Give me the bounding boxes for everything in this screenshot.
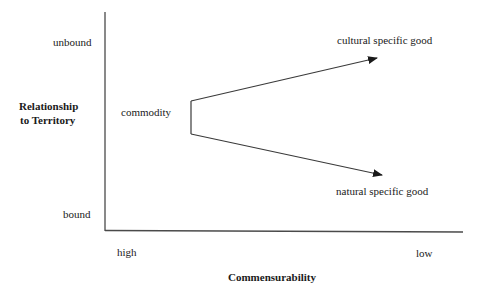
commodity-label: commodity [121, 106, 171, 119]
y-axis-top-label: unbound [53, 36, 92, 49]
y-axis-bottom-label: bound [63, 208, 91, 221]
x-axis-right-label: low [416, 247, 433, 260]
y-axis-title-line1: Relationship [19, 99, 78, 113]
cultural-specific-good-label: cultural specific good [337, 34, 432, 47]
x-axis-line [105, 231, 463, 233]
natural-specific-good-label: natural specific good [336, 185, 428, 198]
arrow-to-natural-specific-good [191, 134, 382, 175]
y-axis-title-line2: to Territory [19, 113, 78, 127]
arrow-to-cultural-specific-good [191, 58, 377, 101]
y-axis-title: Relationship to Territory [19, 99, 78, 127]
x-axis-left-label: high [117, 246, 137, 259]
x-axis-title: Commensurability [228, 271, 316, 284]
